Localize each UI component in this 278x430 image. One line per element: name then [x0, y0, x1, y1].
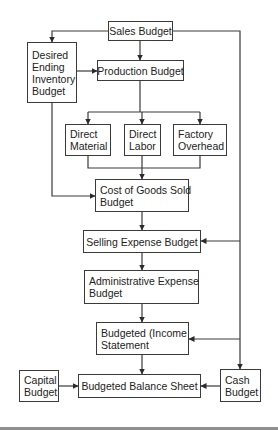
- node-label: Budget: [225, 386, 256, 398]
- node-label: Sales Budget: [109, 25, 171, 37]
- desired-ending-inventory-budget-node: Desired Ending Inventory Budget: [27, 42, 77, 103]
- node-label: Capital: [24, 374, 54, 386]
- node-label: Direct: [70, 128, 106, 140]
- direct-labor-node: Direct Labor: [124, 124, 161, 156]
- production-budget-node: Production Budget: [97, 60, 184, 81]
- node-label: Overhead: [178, 140, 222, 152]
- node-label: Selling Expense Budget: [86, 236, 198, 248]
- node-label: Budget: [89, 287, 194, 299]
- node-label: Cost of Goods Sold: [100, 184, 184, 196]
- node-label: Factory: [178, 128, 222, 140]
- sales-budget-node: Sales Budget: [108, 21, 173, 41]
- node-label: Statement: [101, 339, 184, 351]
- node-label: Cash: [225, 374, 256, 386]
- factory-overhead-node: Factory Overhead: [173, 124, 227, 156]
- node-label: Material: [70, 140, 106, 152]
- budgeted-balance-sheet-node: Budgeted Balance Sheet: [78, 374, 201, 398]
- node-label: Budgeted Balance Sheet: [81, 380, 197, 392]
- direct-material-node: Direct Material: [65, 124, 111, 156]
- cash-budget-node: Cash Budget: [220, 369, 261, 402]
- node-label: Labor: [129, 140, 156, 152]
- node-label: Production Budget: [97, 65, 183, 77]
- capital-budget-node: Capital Budget: [19, 370, 59, 402]
- administrative-expense-budget-node: Administrative Expense Budget: [84, 270, 199, 304]
- node-label: Desired: [32, 49, 72, 61]
- budgeted-income-statement-node: Budgeted (Income Statement: [96, 322, 189, 355]
- node-label: Inventory: [32, 73, 72, 85]
- node-label: Budget: [100, 196, 184, 208]
- node-label: Administrative Expense: [89, 275, 194, 287]
- selling-expense-budget-node: Selling Expense Budget: [83, 230, 201, 253]
- node-label: Budget: [24, 386, 54, 398]
- cost-of-goods-sold-budget-node: Cost of Goods Sold Budget: [95, 179, 189, 212]
- node-label: Budgeted (Income: [101, 327, 184, 339]
- node-label: Budget: [32, 85, 72, 97]
- node-label: Direct: [129, 128, 156, 140]
- node-label: Ending: [32, 61, 72, 73]
